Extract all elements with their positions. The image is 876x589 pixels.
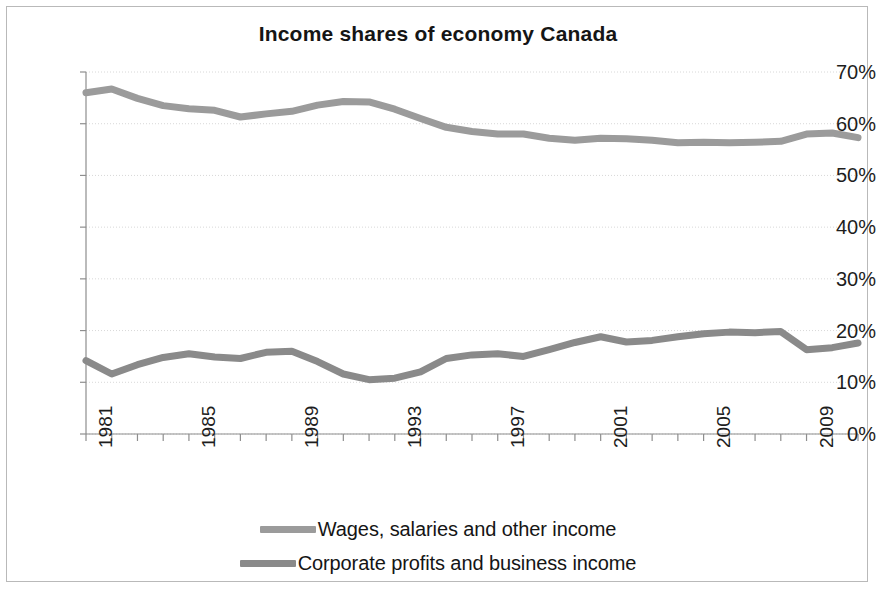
series-line-corporate xyxy=(86,332,858,380)
series-line-wages xyxy=(86,89,858,143)
legend-item-corporate: Corporate profits and business income xyxy=(0,546,876,580)
legend-label-wages: Wages, salaries and other income xyxy=(318,518,616,541)
chart-legend: Wages, salaries and other income Corpora… xyxy=(0,512,876,580)
chart-page: Income shares of economy Canada 0%10%20%… xyxy=(0,0,876,589)
plot-area xyxy=(86,72,858,434)
legend-item-wages: Wages, salaries and other income xyxy=(0,512,876,546)
legend-swatch-corporate xyxy=(240,560,296,567)
legend-label-corporate: Corporate profits and business income xyxy=(298,552,637,575)
line-chart-svg xyxy=(86,72,858,434)
chart-title: Income shares of economy Canada xyxy=(0,22,876,46)
legend-swatch-wages xyxy=(260,526,316,533)
